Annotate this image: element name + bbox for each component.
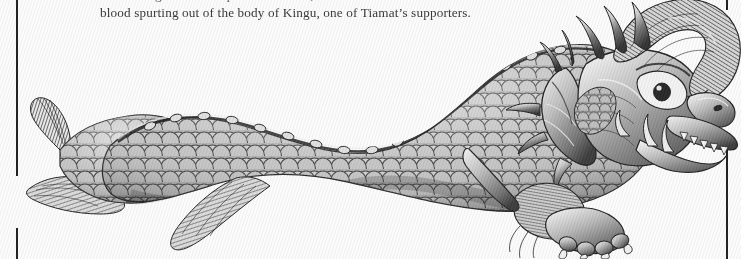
clawed-foot xyxy=(509,183,632,259)
right-column-rule-upper xyxy=(726,0,728,10)
tail-fin-upper xyxy=(31,98,71,161)
right-column-rule-lower xyxy=(726,145,728,259)
scaled-body xyxy=(102,45,660,212)
left-column-rule-upper xyxy=(16,0,18,176)
dorsal-ridge xyxy=(118,45,596,208)
mane xyxy=(614,0,741,101)
neck-frill xyxy=(506,30,596,192)
snout xyxy=(687,93,735,128)
jaw-teeth xyxy=(616,110,738,172)
engraving-grain xyxy=(0,0,741,259)
hind-limb xyxy=(463,149,519,212)
caption: a mere fragment of the pictorial record,… xyxy=(100,0,620,21)
mid-body-fin xyxy=(171,177,270,250)
left-column-rule-lower xyxy=(16,228,18,259)
book-page: a mere fragment of the pictorial record,… xyxy=(0,0,741,259)
tail-fluke-lower xyxy=(27,176,125,214)
tail-scaled xyxy=(60,115,204,203)
dragon-head xyxy=(574,0,740,172)
dragon-engraving xyxy=(0,0,741,259)
eye xyxy=(636,64,708,109)
caption-line: blood spurting out of the body of Kingu,… xyxy=(100,4,620,22)
